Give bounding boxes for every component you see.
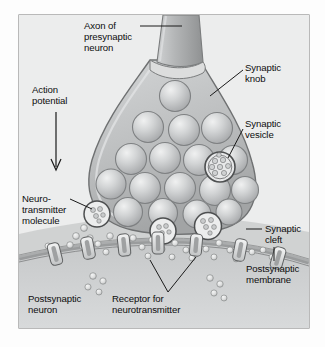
label-axon-of-presynaptic-neuron: Axon of presynaptic neuron [84,20,132,54]
receptor-5 [189,234,203,257]
label-postsynaptic-membrane: Postsynaptic membrane [246,263,299,285]
exocytosis-vesicle-left [84,201,110,227]
receptor-4 [152,232,164,254]
axon-of-presynaptic-neuron [157,15,203,67]
label-postsynaptic-neuron: Postsynaptic neuron [28,293,81,315]
label-synaptic-vesicle: Synaptic vesicle [245,118,281,140]
label-synaptic-cleft: Synaptic cleft [265,223,301,245]
synapse-diagram-figure: Axon of presynaptic neuron Action potent… [0,0,325,347]
label-synaptic-knob: Synaptic knob [245,62,281,84]
label-neurotransmitter-molecule: Neuro- transmitter molecule [22,193,66,227]
label-receptor-for-neurotransmitter: Receptor for neurotransmitter [112,293,180,315]
receptor-3 [117,233,131,256]
label-action-potential: Action potential [32,84,67,106]
synaptic-vesicle-labeled [205,152,235,182]
